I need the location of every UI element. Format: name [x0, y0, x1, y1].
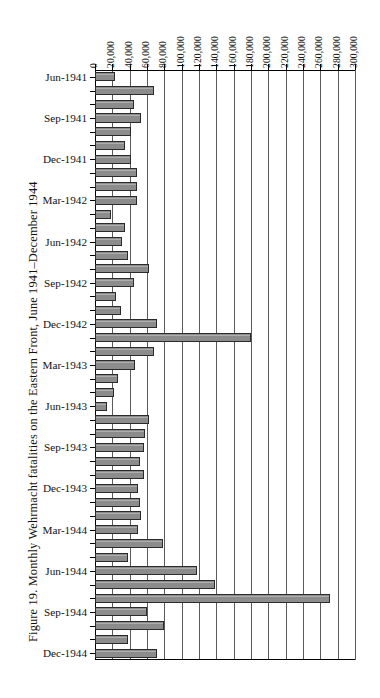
value-axis-tick-label: 60,000	[140, 41, 151, 68]
category-axis-label: Sep-1944	[44, 606, 87, 618]
category-axis-label: Dec-1941	[43, 153, 87, 165]
category-axis-label: Jun-1943	[45, 400, 87, 412]
gridline	[355, 70, 356, 660]
bar	[95, 113, 141, 122]
bar	[95, 72, 115, 81]
bar	[95, 196, 137, 205]
category-axis-labels: Jun-1941Sep-1941Dec-1941Mar-1942Jun-1942…	[0, 70, 95, 660]
category-axis-label: Dec-1944	[43, 647, 87, 659]
bar	[95, 333, 251, 342]
bar	[95, 210, 111, 219]
value-axis-tick-label: 300,000	[348, 36, 359, 68]
bar	[95, 223, 125, 232]
bar	[95, 388, 114, 397]
category-axis-label: Jun-1942	[45, 236, 87, 248]
bar	[95, 347, 154, 356]
bar	[95, 649, 157, 658]
bar	[95, 251, 128, 260]
bar	[95, 86, 154, 95]
value-axis-tick-label: 120,000	[192, 36, 203, 68]
value-axis-tick-label: 20,000	[105, 41, 116, 68]
value-axis-tick-label: 160,000	[227, 36, 238, 68]
bar	[95, 141, 125, 150]
category-axis-label: Mar-1944	[42, 524, 87, 536]
bar	[95, 511, 141, 520]
category-axis-label: Sep-1943	[44, 441, 87, 453]
plot-area	[95, 70, 355, 660]
bar	[95, 553, 128, 562]
category-axis-label: Jun-1941	[45, 71, 87, 83]
category-axis-label: Mar-1942	[42, 194, 87, 206]
category-axis-label: Sep-1941	[44, 112, 87, 124]
bar	[95, 470, 144, 479]
value-axis-tick-label: 40,000	[123, 41, 134, 68]
category-axis-label: Jun-1944	[45, 565, 87, 577]
bar	[95, 594, 330, 603]
bar	[95, 237, 122, 246]
bar	[95, 525, 138, 534]
bar	[95, 127, 131, 136]
bar	[95, 292, 116, 301]
bar	[95, 415, 149, 424]
bar	[95, 498, 140, 507]
category-axis-label: Dec-1943	[43, 482, 87, 494]
bar	[95, 306, 121, 315]
bar	[95, 374, 118, 383]
bar	[95, 168, 137, 177]
bar	[95, 566, 197, 575]
value-axis-tick-label: 0	[88, 63, 99, 68]
value-axis-tick-label: 220,000	[279, 36, 290, 68]
category-axis-label: Mar-1943	[42, 359, 87, 371]
category-axis-label: Sep-1942	[44, 277, 87, 289]
bar	[95, 100, 134, 109]
bar	[95, 319, 157, 328]
category-axis-label: Dec-1942	[43, 318, 87, 330]
bar	[95, 621, 164, 630]
value-axis-tick-label: 240,000	[296, 36, 307, 68]
bar	[95, 278, 134, 287]
bar	[95, 155, 131, 164]
value-axis-labels: 020,00040,00060,00080,000100,000120,0001…	[0, 0, 380, 70]
value-axis-tick-label: 260,000	[313, 36, 324, 68]
bar	[95, 539, 163, 548]
value-axis-tick-label: 280,000	[331, 36, 342, 68]
bar	[95, 443, 144, 452]
bar	[95, 484, 138, 493]
bar	[95, 635, 128, 644]
value-axis-tick-label: 140,000	[209, 36, 220, 68]
value-axis-tick-label: 180,000	[244, 36, 255, 68]
value-axis-tick-label: 80,000	[157, 41, 168, 68]
bar	[95, 580, 215, 589]
bar	[95, 402, 107, 411]
bar	[95, 264, 149, 273]
value-axis-tick-label: 100,000	[175, 36, 186, 68]
value-axis-tick-label: 200,000	[261, 36, 272, 68]
bar	[95, 429, 145, 438]
bar	[95, 607, 147, 616]
bar	[95, 360, 135, 369]
bar	[95, 457, 140, 466]
bar-series	[95, 70, 355, 660]
bar	[95, 182, 137, 191]
